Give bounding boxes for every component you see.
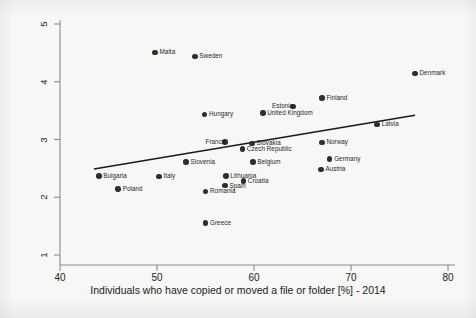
chart-page: MaltaSwedenDenmarkFinlandEstoniaUnited K… bbox=[0, 0, 476, 318]
x-axis-tick-label: 70 bbox=[336, 272, 366, 283]
data-point-label: Finland bbox=[326, 95, 347, 101]
data-point-label: France bbox=[205, 139, 225, 145]
data-point-label: Latvia bbox=[382, 121, 399, 127]
data-point-label: Czech Republic bbox=[247, 146, 292, 152]
scatter-plot-canvas bbox=[0, 0, 476, 318]
y-axis-ticks bbox=[54, 24, 60, 255]
data-point-label: Germany bbox=[334, 156, 360, 162]
data-point-label: Slovenia bbox=[191, 159, 216, 165]
data-point-label: Hungary bbox=[209, 111, 233, 117]
data-point-label: Italy bbox=[163, 173, 175, 179]
data-point-label: Romania bbox=[210, 188, 236, 194]
data-point bbox=[192, 54, 198, 60]
data-point bbox=[240, 146, 246, 152]
data-point bbox=[183, 159, 189, 165]
y-axis-tick-label: 4 bbox=[38, 75, 50, 89]
data-point-label: Poland bbox=[123, 186, 143, 192]
data-point bbox=[319, 95, 325, 101]
y-axis-tick-label: 3 bbox=[38, 133, 50, 147]
data-point-label: United Kingdom bbox=[267, 110, 313, 116]
data-point-label: Austria bbox=[325, 166, 345, 172]
data-point-label: Denmark bbox=[420, 70, 446, 76]
data-point bbox=[260, 110, 266, 116]
data-point bbox=[223, 173, 229, 179]
data-point bbox=[115, 186, 121, 192]
data-point-label: Greece bbox=[210, 220, 231, 226]
data-point-label: Belgium bbox=[258, 159, 281, 165]
x-axis-ticks bbox=[60, 265, 448, 271]
data-point-label: Bulgaria bbox=[103, 173, 127, 179]
data-point-label: Norway bbox=[326, 139, 348, 145]
data-point bbox=[318, 167, 324, 173]
y-axis-tick-label: 2 bbox=[38, 190, 50, 204]
y-axis-tick-label: 1 bbox=[38, 248, 50, 262]
y-axis-tick-label: 5 bbox=[38, 17, 50, 31]
data-point-label: Sweden bbox=[199, 53, 222, 59]
x-axis-tick-label: 80 bbox=[433, 272, 463, 283]
data-point bbox=[152, 50, 158, 56]
x-axis-tick-label: 60 bbox=[239, 272, 269, 283]
x-axis-tick-label: 50 bbox=[142, 272, 172, 283]
data-point bbox=[319, 140, 325, 146]
data-point-label: Malta bbox=[160, 49, 176, 55]
x-axis-title: Individuals who have copied or moved a f… bbox=[0, 284, 476, 296]
data-point-label: Croatia bbox=[248, 178, 269, 184]
data-point bbox=[250, 159, 256, 165]
data-point bbox=[156, 174, 162, 180]
data-point bbox=[96, 173, 102, 179]
x-axis-tick-label: 40 bbox=[45, 272, 75, 283]
